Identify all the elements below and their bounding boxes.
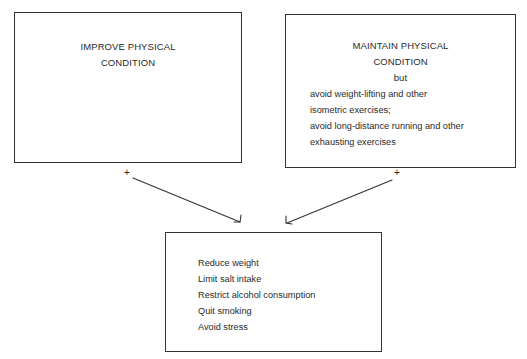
right-arrow-icon — [286, 180, 392, 224]
connector-arrows — [0, 0, 527, 359]
left-arrow-icon — [133, 178, 241, 222]
